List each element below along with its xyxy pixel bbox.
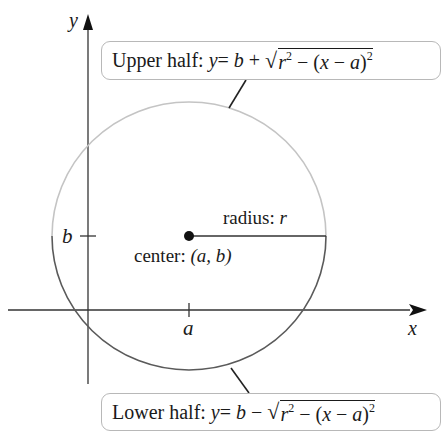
upper-callout-prefix: Upper half:: [112, 49, 204, 72]
upper-callout-exp2: 2: [367, 49, 373, 63]
upper-half-callout: Upper half: y = b + √r2 − (x − a)2: [101, 41, 441, 80]
center-label-prefix: center:: [134, 245, 190, 266]
upper-callout-minus2: −: [329, 51, 350, 73]
upper-callout-a: a: [350, 51, 360, 73]
radius-label: radius: r: [223, 208, 287, 227]
lower-callout-exp2: 2: [369, 401, 375, 415]
lower-callout-prefix: Lower half:: [112, 401, 206, 424]
upper-callout-eq: =: [218, 49, 229, 72]
radius-label-prefix: radius:: [223, 207, 279, 228]
upper-callout-op: +: [249, 49, 260, 72]
radius-label-value: r: [279, 207, 286, 228]
lower-callout-x: x: [322, 403, 331, 425]
lower-callout-sqrt-icon: √: [267, 399, 279, 425]
center-label: center: (a, b): [134, 246, 232, 265]
lower-callout-radicand: r2 − (x − a)2: [280, 400, 375, 425]
lower-leader-line: [231, 368, 249, 393]
lower-callout-eq: =: [220, 401, 231, 424]
upper-callout-close: ): [360, 51, 367, 73]
y-axis-label: y: [69, 10, 78, 30]
y-tick-label: b: [62, 226, 73, 247]
upper-callout-lhs: y: [209, 49, 218, 72]
upper-callout-minus: − (: [292, 51, 320, 73]
upper-callout-sqrt-icon: √: [265, 48, 277, 74]
center-point: [184, 231, 194, 241]
x-axis-arrow-icon: [409, 304, 427, 316]
upper-callout-b: b: [234, 49, 244, 72]
upper-leader-line: [229, 80, 246, 108]
center-label-value: (a, b): [190, 245, 231, 266]
x-axis-label: x: [408, 318, 417, 338]
lower-callout-minus2: −: [331, 403, 352, 425]
y-axis-arrow-icon: [83, 14, 93, 30]
lower-callout-minus: − (: [294, 403, 322, 425]
upper-callout-radicand: r2 − (x − a)2: [278, 48, 373, 73]
lower-callout-lhs: y: [211, 401, 220, 424]
upper-callout-r: r: [278, 51, 286, 73]
lower-callout-op: −: [251, 401, 262, 424]
lower-callout-close: ): [362, 403, 369, 425]
x-tick-label: a: [183, 318, 194, 339]
upper-callout-x: x: [320, 51, 329, 73]
lower-callout-a: a: [352, 403, 362, 425]
lower-callout-b: b: [236, 401, 246, 424]
lower-half-callout: Lower half: y = b − √r2 − (x − a)2: [101, 393, 441, 431]
